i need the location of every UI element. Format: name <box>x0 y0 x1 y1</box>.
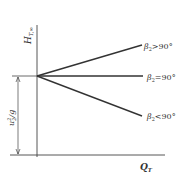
pump-head-flow-diagram: HT,∞ u22/g β2>90° β2=90° β2<90° QT <box>0 0 185 182</box>
curve-beta-lt-90 <box>37 76 142 116</box>
curve-label-beta-gt-90: β2>90° <box>143 42 173 52</box>
dimension-label: u22/g <box>6 110 17 126</box>
curve-beta-gt-90 <box>37 45 142 76</box>
curve-label-beta-lt-90: β2<90° <box>146 112 176 122</box>
curve-label-beta-eq-90: β2=90° <box>146 73 176 83</box>
y-axis-label: HT,∞ <box>23 27 34 45</box>
x-axis-label: QT <box>140 162 153 173</box>
